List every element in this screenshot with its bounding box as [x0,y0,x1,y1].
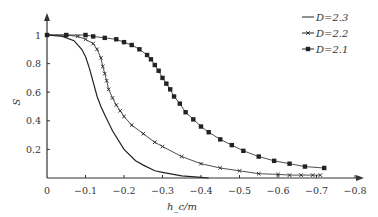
square-marker-icon [153,63,157,67]
chart-canvas: 0−0.1−0.2−0.3−0.4−0.5−0.6−0.7−0.80.20.40… [0,0,378,217]
x-tick-label: −0.3 [151,185,174,196]
x-marker-icon [153,140,157,144]
x-marker-icon [130,123,134,127]
square-marker-icon [91,34,95,38]
y-axis-label: S [11,98,22,105]
square-marker-icon [241,149,245,153]
square-marker-icon [145,53,149,57]
y-tick-label: 0.8 [26,58,41,69]
square-marker-icon [257,154,261,158]
legend-square-marker-icon [306,47,310,51]
x-tick-label: −0.6 [266,185,289,196]
square-marker-icon [149,57,153,61]
y-tick-label: 0.2 [26,144,41,155]
legend-label: D=2.2 [315,28,348,39]
x-axis-arrow-icon [356,175,364,181]
x-tick-label: −0.8 [343,185,366,196]
square-marker-icon [83,33,87,37]
x-marker-icon [180,155,184,159]
square-marker-icon [183,110,187,114]
square-marker-icon [303,164,307,168]
square-marker-icon [103,36,107,40]
series-line-D=2.1 [47,35,324,168]
series-line-D=2.2 [47,35,320,175]
square-marker-icon [172,94,176,98]
x-marker-icon [95,48,99,52]
x-tick-label: 0 [44,185,50,196]
square-marker-icon [45,33,49,37]
x-marker-icon [115,103,119,107]
x-marker-icon [161,145,165,149]
square-marker-icon [178,101,182,105]
x-marker-icon [118,109,122,113]
chart: 0−0.1−0.2−0.3−0.4−0.5−0.6−0.7−0.80.20.40… [0,0,378,217]
x-tick-label: −0.1 [74,185,97,196]
series-line-D=2.3 [47,35,209,178]
square-marker-icon [287,162,291,166]
square-marker-icon [114,37,118,41]
square-marker-icon [160,76,164,80]
x-marker-icon [122,115,126,119]
legend-label: D=2.1 [315,44,348,55]
x-marker-icon [141,132,145,136]
square-marker-icon [156,69,160,73]
square-marker-icon [168,87,172,91]
x-marker-icon [84,37,88,41]
square-marker-icon [218,137,222,141]
square-marker-icon [137,47,141,51]
y-tick-label: 1 [35,30,41,41]
x-marker-icon [111,96,115,100]
y-tick-label: 0.4 [26,115,41,126]
x-tick-label: −0.2 [112,185,135,196]
square-marker-icon [272,159,276,163]
square-marker-icon [207,130,211,134]
square-marker-icon [191,117,195,121]
y-axis-arrow-icon [44,13,50,21]
square-marker-icon [164,81,168,85]
y-tick-label: 0.6 [26,87,41,98]
legend-label: D=2.3 [315,12,348,23]
square-marker-icon [64,33,68,37]
x-axis-label: h_c/m [167,201,197,213]
x-tick-label: −0.7 [305,185,328,196]
square-marker-icon [322,166,326,170]
x-tick-label: −0.5 [228,185,251,196]
square-marker-icon [230,143,234,147]
square-marker-icon [122,40,126,44]
square-marker-icon [199,124,203,128]
square-marker-icon [130,43,134,47]
x-tick-label: −0.4 [189,185,212,196]
x-marker-icon [91,42,95,46]
